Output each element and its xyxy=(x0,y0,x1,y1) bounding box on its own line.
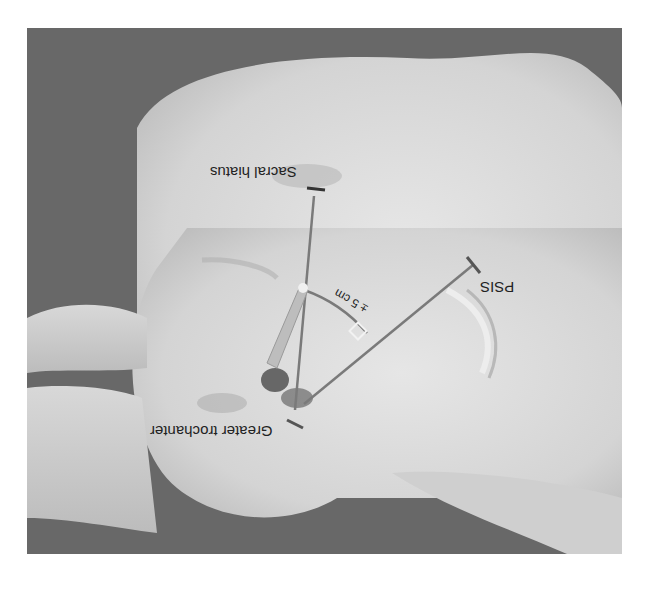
photo-illustration xyxy=(27,28,622,554)
leg-upper xyxy=(27,305,147,373)
anatomy-photo: Sacral hiatus PSIS Greater trochanter ± … xyxy=(27,28,622,554)
label-psis: PSIS xyxy=(480,279,514,296)
hip-silhouette xyxy=(132,228,622,517)
sacral-marker xyxy=(307,188,325,190)
label-greater-trochanter: Greater trochanter xyxy=(150,423,273,440)
needle-hub xyxy=(298,283,308,293)
label-sacral-hiatus: Sacral hiatus xyxy=(210,164,297,181)
leg-lower xyxy=(27,386,157,533)
